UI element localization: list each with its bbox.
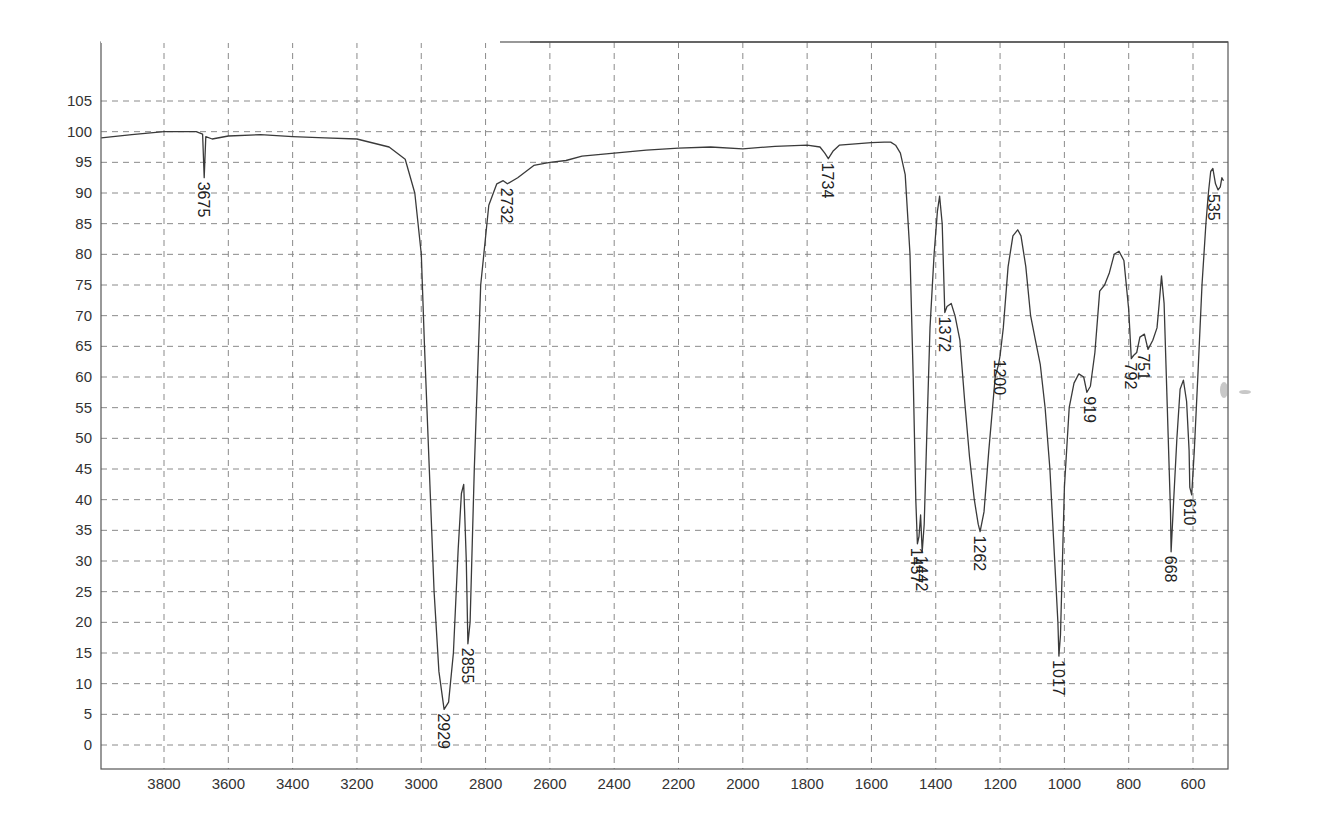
y-tick-label: 40 [75,491,92,508]
y-tick-label: 70 [75,307,92,324]
x-tick-label: 800 [1116,775,1141,792]
x-tick-label: 3800 [147,775,180,792]
y-tick-label: 105 [67,92,92,109]
peak-label: 1017 [1050,660,1067,696]
y-tick-label: 5 [84,705,92,722]
y-tick-label: 100 [67,123,92,140]
peak-label: 919 [1081,396,1098,423]
x-tick-label: 2600 [533,775,566,792]
peak-annotation: 3675 [195,182,212,218]
y-tick-label: 50 [75,429,92,446]
scan-smudge [1220,382,1228,398]
x-tick-label: 3200 [340,775,373,792]
ir-spectrum-chart: 0510152025303540455055606570758085909510… [0,0,1322,829]
x-tick-label: 2200 [662,775,695,792]
x-tick-label: 2800 [469,775,502,792]
x-axis-tick-labels: 3800360034003200300028002600240022002000… [147,775,1205,792]
x-tick-label: 3600 [212,775,245,792]
peak-annotation: 2855 [459,648,476,684]
y-tick-label: 85 [75,215,92,232]
x-tick-label: 1800 [790,775,823,792]
y-tick-label: 45 [75,460,92,477]
peak-annotation: 668 [1162,556,1179,583]
peak-annotation: 1262 [971,536,988,572]
peak-annotation: 2929 [435,713,452,749]
peak-label: 3675 [195,182,212,218]
peak-label: 535 [1205,194,1222,221]
peak-label: 610 [1181,499,1198,526]
peak-label: 1734 [819,163,836,199]
peak-label: 1442 [913,556,930,592]
x-tick-label: 1400 [919,775,952,792]
x-tick-label: 1200 [983,775,1016,792]
y-tick-label: 15 [75,644,92,661]
y-tick-label: 90 [75,184,92,201]
y-tick-label: 0 [84,736,92,753]
y-axis-tick-labels: 0510152025303540455055606570758085909510… [67,92,92,753]
peak-label: 668 [1162,556,1179,583]
peak-annotation: 1017 [1050,660,1067,696]
x-tick-label: 1600 [855,775,888,792]
peak-annotation: 610 [1181,499,1198,526]
peak-label: 1372 [936,317,953,353]
y-tick-label: 65 [75,337,92,354]
x-tick-label: 600 [1180,775,1205,792]
x-tick-label: 1000 [1048,775,1081,792]
peak-label: 751 [1135,353,1152,380]
peak-label: 1262 [971,536,988,572]
y-tick-label: 95 [75,153,92,170]
x-tick-label: 2000 [726,775,759,792]
y-tick-label: 20 [75,613,92,630]
peak-label: 2732 [498,188,515,224]
peak-annotation: 2732 [498,188,515,224]
x-tick-label: 3400 [276,775,309,792]
peak-label: 2929 [435,713,452,749]
y-tick-label: 35 [75,521,92,538]
peak-annotation: 1372 [936,317,953,353]
peak-annotation: 1442 [913,556,930,592]
y-tick-label: 80 [75,245,92,262]
peak-label: 1200 [991,360,1008,396]
y-tick-label: 30 [75,552,92,569]
peak-label: 2855 [459,648,476,684]
y-tick-label: 10 [75,675,92,692]
peak-annotation: 1734 [819,163,836,199]
peak-annotation: 1200 [991,360,1008,396]
y-tick-label: 60 [75,368,92,385]
peak-annotations: 3675292928552732173414571442137212621200… [195,163,1222,749]
peak-annotation: 751 [1135,353,1152,380]
y-tick-label: 75 [75,276,92,293]
scan-smudge [1239,390,1251,394]
peak-annotation: 919 [1081,396,1098,423]
y-tick-label: 55 [75,399,92,416]
x-tick-label: 3000 [405,775,438,792]
y-tick-label: 25 [75,583,92,600]
peak-annotation: 535 [1205,194,1222,221]
x-tick-label: 2400 [598,775,631,792]
